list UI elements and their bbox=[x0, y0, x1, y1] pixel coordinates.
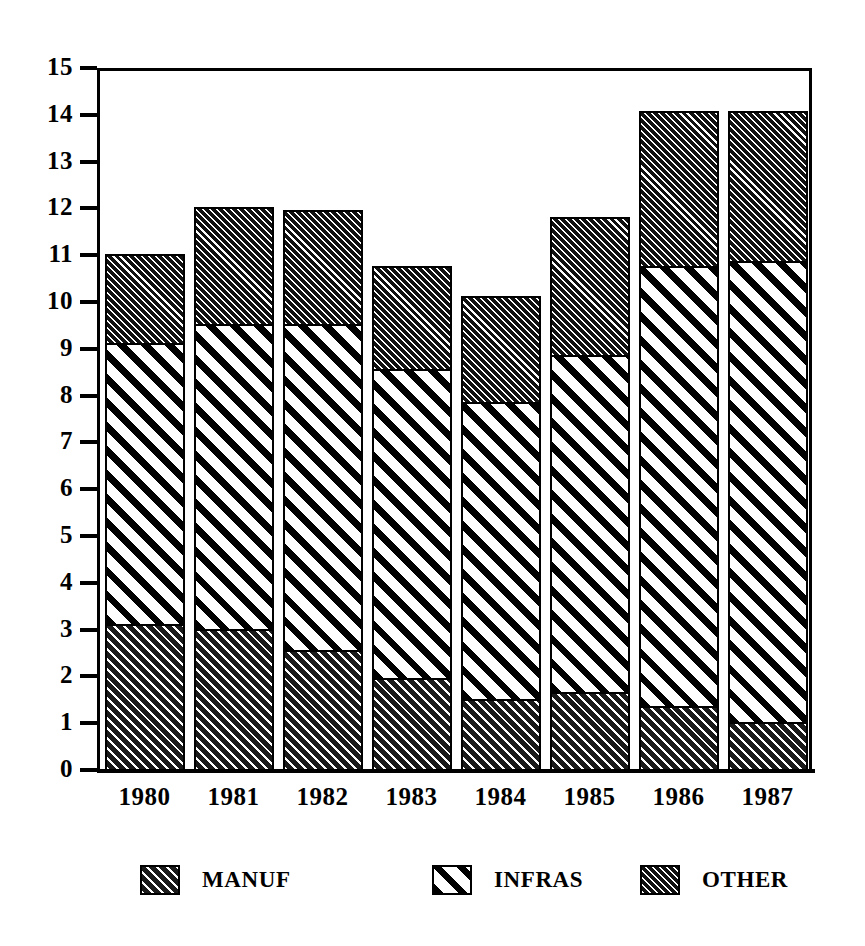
bar-group-1985 bbox=[550, 68, 630, 770]
x-axis-label-1982: 1982 bbox=[278, 780, 367, 814]
bar-segment-manuf-1981 bbox=[194, 629, 274, 771]
legend-swatch-manuf bbox=[140, 865, 180, 895]
bar-segment-other-1986 bbox=[639, 111, 719, 267]
bar-group-1987 bbox=[728, 68, 808, 770]
legend-item-infras: INFRAS bbox=[432, 860, 583, 900]
bar-segment-manuf-1983 bbox=[372, 678, 452, 771]
bar-segment-infras-1980 bbox=[105, 343, 185, 626]
legend-swatch-infras bbox=[432, 865, 472, 895]
bar-segment-manuf-1987 bbox=[728, 722, 808, 771]
x-axis-label-1986: 1986 bbox=[634, 780, 723, 814]
bar-segment-infras-1983 bbox=[372, 369, 452, 680]
x-axis: 19801981198219831984198519861987 bbox=[0, 780, 865, 820]
bar-segment-other-1987 bbox=[728, 111, 808, 263]
x-axis-label-1984: 1984 bbox=[456, 780, 545, 814]
bar-group-1986 bbox=[639, 68, 719, 770]
bar-segment-manuf-1982 bbox=[283, 650, 363, 771]
stacked-bar-chart: 1514131211109876543210 19801981198219831… bbox=[0, 0, 865, 946]
x-axis-label-1983: 1983 bbox=[367, 780, 456, 814]
x-axis-label-1985: 1985 bbox=[545, 780, 634, 814]
legend-label-other: OTHER bbox=[702, 867, 788, 893]
chart-legend: MANUFINFRASOTHER bbox=[0, 860, 865, 910]
bar-segment-infras-1985 bbox=[550, 355, 630, 694]
bar-segment-other-1984 bbox=[461, 296, 541, 403]
x-axis-label-1981: 1981 bbox=[189, 780, 278, 814]
bar-segment-infras-1982 bbox=[283, 324, 363, 651]
bar-segment-manuf-1980 bbox=[105, 624, 185, 771]
bar-segment-infras-1987 bbox=[728, 261, 808, 724]
bar-segment-infras-1984 bbox=[461, 402, 541, 701]
bar-segment-other-1985 bbox=[550, 217, 630, 357]
bar-segment-manuf-1986 bbox=[639, 706, 719, 771]
legend-swatch-other bbox=[640, 865, 680, 895]
bar-group-1983 bbox=[372, 68, 452, 770]
bar-segment-infras-1986 bbox=[639, 266, 719, 708]
bar-segment-other-1980 bbox=[105, 254, 185, 345]
bar-group-1980 bbox=[105, 68, 185, 770]
bar-group-1981 bbox=[194, 68, 274, 770]
x-axis-label-1987: 1987 bbox=[723, 780, 812, 814]
bar-segment-manuf-1985 bbox=[550, 692, 630, 771]
bar-segment-other-1982 bbox=[283, 210, 363, 327]
bar-segment-manuf-1984 bbox=[461, 699, 541, 771]
bar-group-1982 bbox=[283, 68, 363, 770]
bar-segment-infras-1981 bbox=[194, 324, 274, 630]
legend-label-manuf: MANUF bbox=[202, 867, 291, 893]
bar-segment-other-1981 bbox=[194, 207, 274, 326]
legend-item-manuf: MANUF bbox=[140, 860, 291, 900]
legend-item-other: OTHER bbox=[640, 860, 788, 900]
legend-label-infras: INFRAS bbox=[494, 867, 583, 893]
x-axis-label-1980: 1980 bbox=[100, 780, 189, 814]
bar-segment-other-1983 bbox=[372, 266, 452, 371]
bar-group-1984 bbox=[461, 68, 541, 770]
